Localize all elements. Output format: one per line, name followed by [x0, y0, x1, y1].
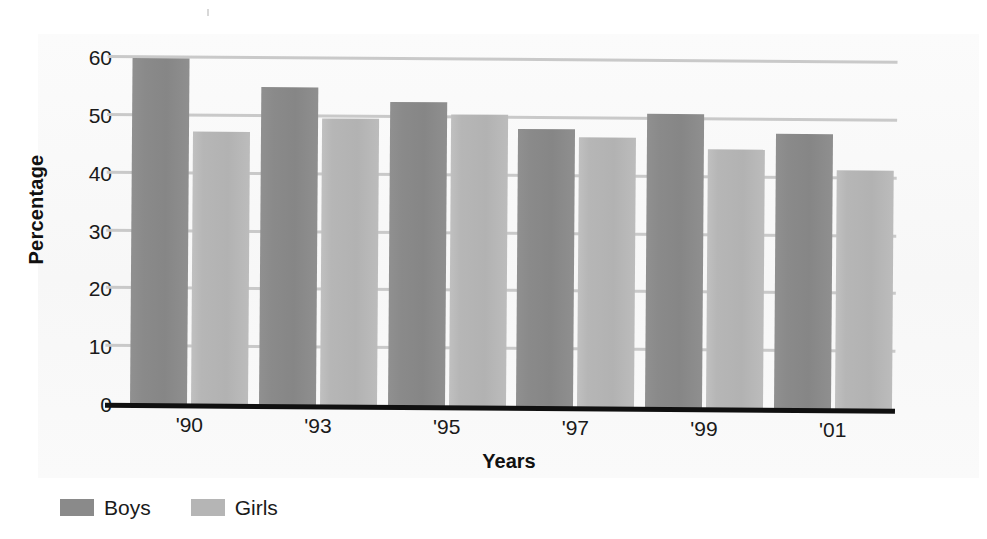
x-axis-title: Years: [123, 450, 895, 473]
legend-label-boys: Boys: [104, 497, 151, 518]
bar-group-90: [130, 58, 251, 406]
plot-area: [123, 58, 898, 411]
x-axis-tick-labels: '90'93'95'97'99'01: [123, 414, 895, 444]
y-axis-title: Percentage: [25, 135, 48, 285]
x-tick-label-95: '95: [407, 416, 487, 437]
y-tick-label-50: 50: [66, 105, 112, 126]
legend-item-girls[interactable]: Girls: [191, 497, 278, 518]
bar-boys-90: [130, 58, 190, 405]
y-tick-label-30: 30: [66, 221, 112, 242]
bar-boys-97: [516, 129, 575, 409]
bar-boys-99: [645, 114, 704, 409]
bar-group-99: [645, 62, 766, 410]
x-tick-label-90: '90: [149, 414, 229, 435]
bar-girls-93: [320, 118, 379, 406]
bar-girls-99: [706, 149, 765, 410]
y-tick-label-60: 60: [66, 47, 112, 68]
y-axis-tick-labels: 0102030405060: [56, 58, 112, 405]
bar-girls-01: [835, 170, 894, 410]
bar-boys-93: [259, 87, 318, 407]
x-tick-label-99: '99: [664, 418, 744, 439]
bar-girls-90: [191, 132, 250, 406]
bar-boys-01: [774, 133, 833, 410]
bar-group-95: [388, 60, 509, 408]
legend-label-girls: Girls: [235, 497, 278, 518]
bar-girls-97: [577, 137, 636, 409]
bar-chart-figure: Percentage 0102030405060 '90'93'95'97'99…: [0, 0, 987, 539]
chart-legend: BoysGirls: [60, 497, 278, 518]
legend-swatch-boys-icon: [60, 499, 94, 516]
bar-girls-95: [449, 115, 508, 408]
legend-item-boys[interactable]: Boys: [60, 497, 151, 518]
bar-group-97: [516, 61, 637, 409]
y-tick-label-40: 40: [66, 163, 112, 184]
bar-group-01: [774, 63, 895, 411]
scan-speck: [207, 9, 209, 16]
bar-group-93: [259, 59, 380, 407]
legend-swatch-girls-icon: [191, 499, 225, 516]
x-tick-label-93: '93: [278, 415, 358, 436]
x-tick-label-97: '97: [535, 417, 615, 438]
bar-boys-95: [388, 102, 447, 408]
x-tick-label-01: '01: [793, 419, 873, 440]
